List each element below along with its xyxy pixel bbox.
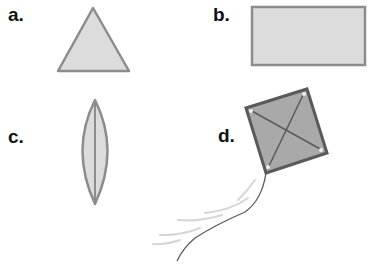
- kite-shape: [153, 89, 327, 261]
- triangle-shape: [58, 8, 129, 71]
- leaf-shape: [83, 100, 108, 204]
- rectangle-shape: [252, 7, 365, 65]
- shapes-canvas: [0, 0, 373, 268]
